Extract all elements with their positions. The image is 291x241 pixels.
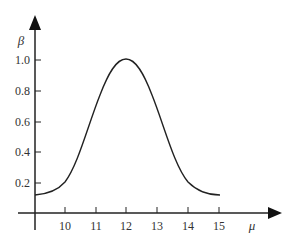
svg-text:0.2: 0.2 (15, 176, 30, 190)
svg-text:15: 15 (213, 219, 225, 233)
y-axis-label: β (17, 33, 25, 48)
svg-text:12: 12 (120, 219, 132, 233)
x-axis-arrow-icon (268, 207, 282, 219)
svg-text:0.4: 0.4 (15, 145, 30, 159)
svg-text:13: 13 (151, 219, 163, 233)
bell-curve (35, 59, 220, 195)
svg-text:0.6: 0.6 (15, 115, 30, 129)
y-tick-labels: 0.2 0.4 0.6 0.8 1.0 (15, 53, 30, 190)
x-tick-labels: 10 11 12 13 14 15 (59, 219, 225, 233)
svg-text:14: 14 (182, 219, 194, 233)
svg-text:0.8: 0.8 (15, 84, 30, 98)
y-ticks (35, 60, 41, 183)
x-ticks (65, 207, 219, 213)
chart: 0.2 0.4 0.6 0.8 1.0 β 10 11 12 13 14 15 … (0, 0, 291, 241)
svg-text:10: 10 (59, 219, 71, 233)
x-axis-label: μ (248, 218, 256, 233)
svg-text:11: 11 (90, 219, 102, 233)
y-axis-arrow-icon (29, 15, 41, 30)
svg-text:1.0: 1.0 (15, 53, 30, 67)
